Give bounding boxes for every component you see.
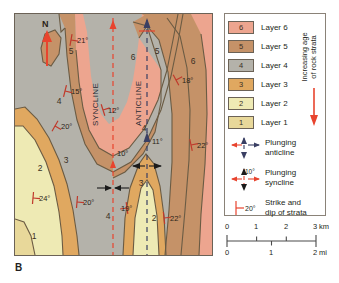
legend-swatch-layer-4: 4 [228,59,254,72]
increasing-age-text: Increasing age of rock strata [300,21,318,93]
legend-label-layer-5: Layer 5 [261,42,288,51]
plunging-syncline-angle: 10° [245,168,255,175]
legend-label-layer-6: Layer 6 [261,23,288,32]
strike-dip-icon: 20° [228,196,262,222]
map-unit-label-4: 4 [57,96,62,106]
plunging-anticline-line2: anticline [265,148,294,157]
map-unit-label-1: 1 [32,231,37,241]
north-label: N [42,19,49,29]
dip-value-label: 21° [77,36,88,45]
plunging-syncline-line2: syncline [265,178,294,187]
scale-km-unit: km [319,222,329,231]
scale-mi-ticks [227,241,316,247]
scale-km-tick-1: 1 [254,222,258,231]
legend-swatch-layer-2: 2 [228,97,254,110]
legend-symbol-strike-dip: 20° Strike and dip of strata [228,196,324,222]
map-unit-label-5: 5 [69,46,74,56]
legend-label-layer-1: Layer 1 [261,118,288,127]
dip-value-label: 22° [170,214,181,223]
plunging-anticline-line1: Plunging [265,138,296,147]
scale-km-tick-2: 2 [284,222,288,231]
scale-mi-unit: mi [319,248,327,257]
strike-dip-angle: 20° [245,205,256,212]
map-unit-label-3: 3 [64,155,69,165]
syncline-axis-label: SYNCLINE [91,83,100,126]
legend-swatch-layer-6: 6 [228,21,254,34]
legend-label-layer-2: Layer 2 [261,99,288,108]
plunging-syncline-label: Plunging syncline [265,166,296,187]
dip-value-label: 18° [182,76,193,85]
map-unit-label-5: 5 [155,46,160,56]
geologic-map-panel: 665544433221 21°15°12°18°20°22°24°20°19°… [14,13,213,256]
map-unit-label-6: 6 [131,52,136,62]
strike-dip-label: Strike and dip of strata [265,196,307,217]
increasing-age-arrow-icon [309,88,319,128]
scale-mi-tick-2: 2 [313,248,317,257]
legend-swatch-layer-5: 5 [228,40,254,53]
syncline-plunge-label: 10° [117,149,128,158]
legend-symbol-plunging-syncline: 10° Plunging syncline [228,166,324,192]
legend-swatch-layer-3: 3 [228,78,254,91]
map-unit-label-2: 2 [152,213,157,223]
map-unit-label-6: 6 [191,56,196,66]
dip-value-label: 22° [197,141,208,150]
dip-value-label: 15° [71,87,82,96]
legend-label-layer-3: Layer 3 [261,80,288,89]
geologic-map-svg: 665544433221 21°15°12°18°20°22°24°20°19°… [15,14,212,255]
map-unit-label-2: 2 [38,163,43,173]
dip-value-label: 20° [83,198,94,207]
legend-symbol-plunging-anticline: Plunging anticline [228,136,324,162]
dip-value-label: 19° [121,204,132,213]
scale-km-tick-0: 0 [225,222,229,231]
strike-dip-line1: Strike and [265,198,301,207]
dip-value-label: 20° [61,122,72,131]
map-units-group [15,14,212,255]
scale-mi-tick-1: 1 [269,248,273,257]
scale-km-ticks [227,235,316,241]
scale-mi-tick-0: 0 [225,248,229,257]
map-unit-label-3: 3 [139,178,144,188]
map-legend: 6Layer 65Layer 54Layer 43Layer 32Layer 2… [224,13,326,216]
dip-value-label: 12° [108,106,119,115]
strike-dip-line2: dip of strata [265,208,307,217]
plunging-anticline-icon [228,136,262,162]
scale-km-tick-3: 3 [313,222,317,231]
increasing-age-line1: Increasing age [300,32,309,81]
panel-letter: B [15,262,22,273]
anticline-plunge-label: 11° [152,137,163,146]
plunging-syncline-line1: Plunging [265,168,296,177]
plunging-syncline-icon: 10° [228,166,262,192]
scale-bar: 0 1 2 3 km 0 1 2 mi [224,222,328,262]
plunging-anticline-label: Plunging anticline [265,136,296,157]
legend-swatch-layer-1: 1 [228,116,254,129]
map-unit-label-4: 4 [106,211,111,221]
increasing-age-axis: Increasing age of rock strata [293,18,323,133]
anticline-axis-label: ANTICLINE [134,81,143,126]
dip-value-label: 24° [39,194,50,203]
increasing-age-line2: of rock strata [309,35,318,78]
legend-label-layer-4: Layer 4 [261,61,288,70]
